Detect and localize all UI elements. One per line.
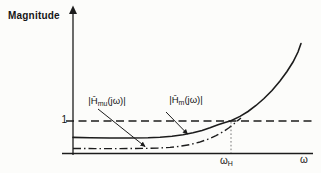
hmu-label-pre: |Ĥ [88,95,97,106]
hm-label-pre: |Ĥ [169,94,178,105]
hm-curve [73,44,301,139]
hm-label-arrow [166,112,188,134]
y-axis-arrowhead-icon [69,6,77,15]
x-axis-title: ω [300,154,308,165]
hm-curve-label: |Ĥm(jω)| [158,94,214,106]
cutoff-label-subscript: H [228,160,233,167]
cutoff-label-base: ω [220,155,228,166]
hmu-curve-label: |Ĥmu(jω)| [79,95,135,107]
hmu-label-post: (jω)| [107,95,125,106]
hmu-label-subscript: mu [98,100,108,107]
magnitude-response-figure: Magnitude 1 |Ĥmu(jω)| |Ĥm(jω)| ωH ω [0,0,321,173]
unity-tick-label: 1 [53,114,67,125]
hmu-label-arrow [98,109,145,147]
hmu-curve [73,118,241,149]
cutoff-frequency-label: ωH [220,155,233,167]
y-axis-title: Magnitude [8,10,60,21]
hm-label-post: (jω)| [184,94,202,105]
plot-canvas [0,0,321,173]
